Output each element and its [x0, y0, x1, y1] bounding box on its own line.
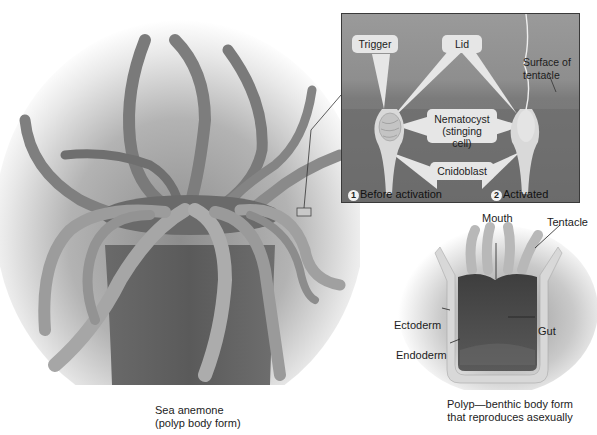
surface-label-line2: tentacle [523, 69, 571, 82]
step-1-label: Before activation [360, 188, 442, 200]
label-endoderm: Endoderm [396, 349, 447, 362]
nematocyst-inset: Trigger Lid Nematocyst (stinging cell) C… [341, 13, 580, 203]
surface-of-tentacle-label: Surface of tentacle [523, 56, 571, 82]
polyp-diagram [380, 215, 597, 390]
callout-trigger: Trigger [352, 35, 398, 53]
label-ectoderm: Ectoderm [394, 319, 441, 332]
polyp-caption: Polyp—benthic body form that reproduces … [430, 398, 590, 424]
sample-region-marker [297, 208, 311, 216]
step-2-label: Activated [503, 188, 548, 200]
sea-anemone-caption: Sea anemone (polyp body form) [155, 404, 241, 430]
polyp-cross-section-drawing [380, 215, 597, 390]
step-activated: 2Activated [491, 188, 548, 201]
sea-anemone-illustration [0, 0, 360, 385]
label-tentacle: Tentacle [547, 216, 588, 229]
polyp-caption-line1: Polyp—benthic body form [430, 398, 590, 411]
sea-anemone-drawing [0, 0, 360, 385]
step-number-2-icon: 2 [491, 190, 502, 201]
label-gut: Gut [538, 325, 556, 338]
step-number-1-icon: 1 [348, 190, 359, 201]
sea-anemone-caption-line2: (polyp body form) [155, 417, 241, 430]
nematocyst-line1: Nematocyst [433, 113, 491, 125]
callout-nematocyst: Nematocyst (stinging cell) [427, 109, 497, 143]
callout-lid: Lid [442, 35, 482, 53]
surface-label-line1: Surface of [523, 56, 571, 69]
nematocyst-line2: (stinging cell) [433, 125, 491, 149]
label-mouth: Mouth [482, 212, 513, 225]
sea-anemone-caption-line1: Sea anemone [155, 404, 241, 417]
polyp-caption-line2: that reproduces asexually [430, 411, 590, 424]
callout-cnidoblast: Cnidoblast [430, 162, 494, 180]
step-before-activation: 1Before activation [348, 188, 442, 201]
